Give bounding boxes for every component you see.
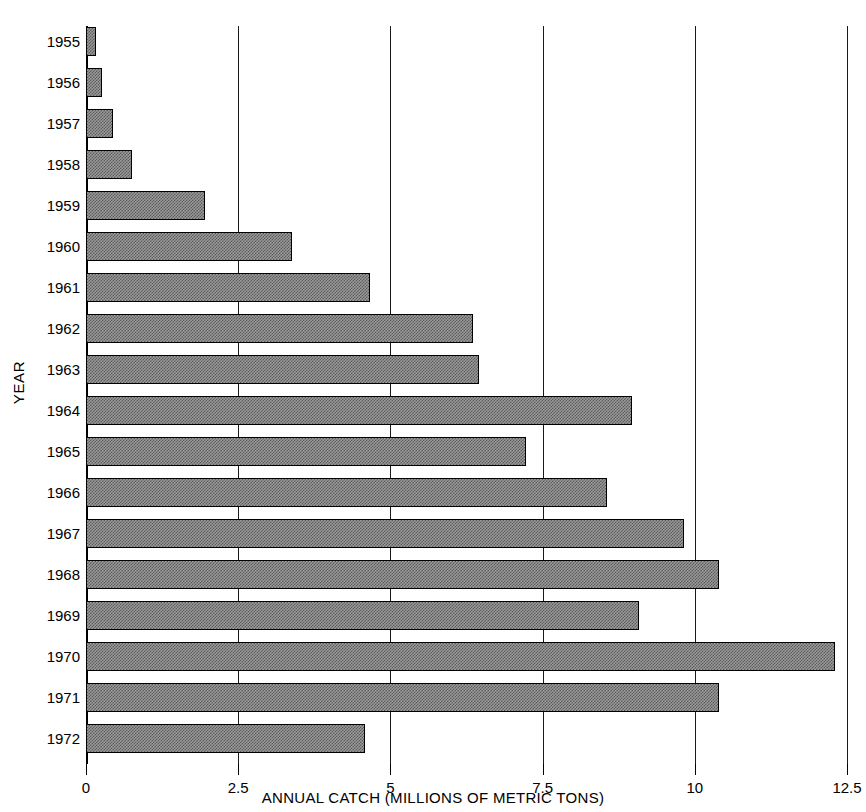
bar-row: 1961 [86, 272, 847, 313]
bar-row: 1958 [86, 149, 847, 190]
y-tick-label-1972: 1972 [47, 724, 80, 753]
bar-row: 1963 [86, 354, 847, 395]
y-tick-label-1960: 1960 [47, 232, 80, 261]
y-tick-label-1957: 1957 [47, 109, 80, 138]
bar-1965[interactable] [86, 437, 526, 466]
x-tick-label-0: 0 [46, 779, 126, 796]
bar-row: 1957 [86, 108, 847, 149]
bar-1962[interactable] [86, 314, 473, 343]
bar-chart: YEAR ANNUAL CATCH (MILLIONS OF METRIC TO… [0, 0, 866, 812]
y-axis-title: YEAR [10, 343, 27, 423]
bar-1957[interactable] [86, 109, 113, 138]
plot-area: 02.557.51012.5 1955195619571958195919601… [86, 26, 847, 764]
bar-row: 1971 [86, 682, 847, 723]
bar-1968[interactable] [86, 560, 719, 589]
y-tick-label-1967: 1967 [47, 519, 80, 548]
bar-row: 1959 [86, 190, 847, 231]
bar-row: 1964 [86, 395, 847, 436]
bar-1971[interactable] [86, 683, 719, 712]
x-tick-0 [86, 764, 87, 775]
bar-1959[interactable] [86, 191, 205, 220]
y-tick-label-1961: 1961 [47, 273, 80, 302]
gridline-12.5 [847, 26, 848, 764]
bar-1964[interactable] [86, 396, 632, 425]
bar-row: 1955 [86, 26, 847, 67]
y-tick-label-1966: 1966 [47, 478, 80, 507]
x-tick-12.5 [847, 764, 848, 775]
y-tick-label-1969: 1969 [47, 601, 80, 630]
y-tick-label-1971: 1971 [47, 683, 80, 712]
bar-1966[interactable] [86, 478, 607, 507]
bar-row: 1965 [86, 436, 847, 477]
bar-row: 1968 [86, 559, 847, 600]
bar-1958[interactable] [86, 150, 132, 179]
bar-1963[interactable] [86, 355, 479, 384]
bar-1960[interactable] [86, 232, 292, 261]
bar-1955[interactable] [86, 27, 96, 56]
bar-row: 1972 [86, 723, 847, 764]
x-tick-10 [695, 764, 696, 775]
x-tick-label-10: 10 [655, 779, 735, 796]
bar-1967[interactable] [86, 519, 684, 548]
x-tick-2.5 [238, 764, 239, 775]
bar-1961[interactable] [86, 273, 370, 302]
x-tick-label-5: 5 [350, 779, 430, 796]
bar-1969[interactable] [86, 601, 639, 630]
x-axis-title: ANNUAL CATCH (MILLIONS OF METRIC TONS) [0, 789, 866, 806]
x-tick-label-7.5: 7.5 [503, 779, 583, 796]
y-tick-label-1963: 1963 [47, 355, 80, 384]
y-tick-label-1959: 1959 [47, 191, 80, 220]
bar-row: 1960 [86, 231, 847, 272]
y-tick-label-1964: 1964 [47, 396, 80, 425]
x-tick-label-2.5: 2.5 [198, 779, 278, 796]
y-tick-label-1958: 1958 [47, 150, 80, 179]
y-tick-label-1970: 1970 [47, 642, 80, 671]
bar-1970[interactable] [86, 642, 835, 671]
y-tick-label-1962: 1962 [47, 314, 80, 343]
bar-1956[interactable] [86, 68, 102, 97]
bar-1972[interactable] [86, 724, 365, 753]
bar-row: 1967 [86, 518, 847, 559]
y-tick-label-1955: 1955 [47, 27, 80, 56]
bar-row: 1970 [86, 641, 847, 682]
bar-row: 1962 [86, 313, 847, 354]
bar-row: 1966 [86, 477, 847, 518]
y-tick-label-1965: 1965 [47, 437, 80, 466]
bar-row: 1969 [86, 600, 847, 641]
y-tick-label-1968: 1968 [47, 560, 80, 589]
x-tick-5 [390, 764, 391, 775]
x-tick-7.5 [543, 764, 544, 775]
y-tick-label-1956: 1956 [47, 68, 80, 97]
x-tick-label-12.5: 12.5 [807, 779, 866, 796]
bar-row: 1956 [86, 67, 847, 108]
